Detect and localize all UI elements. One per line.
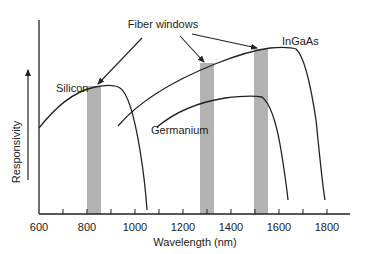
tick-label-1200: 1200	[171, 221, 195, 233]
band-1300	[200, 63, 214, 214]
arrow-to-1300	[180, 36, 204, 62]
y-axis-label-group: Responsivity	[10, 70, 28, 183]
responsivity-chart: 600 800 1000 1200 1400 1600 1800 Wavelen…	[0, 0, 368, 254]
ingaas-curve	[118, 47, 325, 200]
x-axis-label: Wavelength (nm)	[153, 236, 236, 248]
band-1550	[254, 49, 268, 214]
ingaas-label: InGaAs	[282, 35, 319, 47]
fiber-windows-label: Fiber windows	[128, 18, 199, 30]
tick-label-800: 800	[78, 221, 96, 233]
tick-label-1800: 1800	[315, 221, 339, 233]
tick-label-1000: 1000	[123, 221, 147, 233]
germanium-label: Germanium	[151, 124, 208, 136]
tick-label-1600: 1600	[267, 221, 291, 233]
band-850	[87, 86, 101, 214]
germanium-curve	[157, 96, 288, 200]
tick-label-600: 600	[30, 221, 48, 233]
fiber-window-arrows	[98, 34, 257, 84]
x-tick-labels: 600 800 1000 1200 1400 1600 1800	[30, 221, 339, 233]
arrow-to-850	[98, 38, 142, 84]
arrow-to-1550	[192, 34, 257, 48]
x-ticks	[63, 209, 327, 214]
y-axis-label: Responsivity	[10, 120, 22, 183]
axes	[39, 20, 350, 214]
silicon-label: Silicon	[56, 82, 88, 94]
tick-label-1400: 1400	[219, 221, 243, 233]
